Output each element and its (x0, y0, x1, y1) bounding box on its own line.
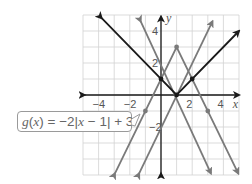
callout-pointer (0, 0, 252, 184)
